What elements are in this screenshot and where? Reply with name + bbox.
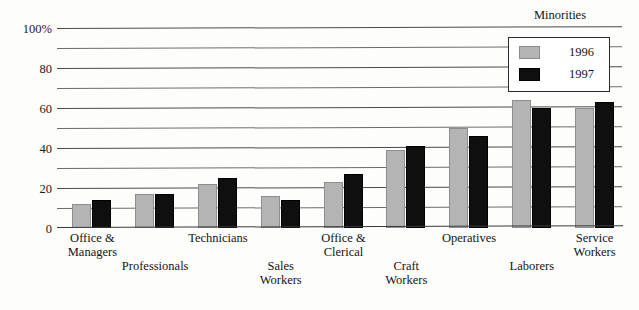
- category-label-line: Workers: [260, 273, 302, 287]
- bar-1996: [135, 194, 154, 228]
- category-label-line: Clerical: [321, 245, 366, 259]
- bar-group: [324, 28, 364, 228]
- y-tick-20: 20: [40, 183, 53, 196]
- category-label: Technicians: [188, 231, 248, 245]
- y-tick-40: 40: [40, 143, 53, 156]
- bar-1996: [198, 184, 217, 228]
- category-label-line: Workers: [574, 245, 616, 259]
- category-label: Office &Clerical: [321, 231, 366, 259]
- black-swatch-icon: [519, 68, 540, 81]
- category-label: Laborers: [510, 259, 554, 273]
- category-label-line: Service: [574, 231, 616, 245]
- category-label: CraftWorkers: [385, 259, 427, 287]
- bar-1996: [512, 100, 531, 228]
- y-tick-60: 60: [40, 103, 53, 116]
- bar-1996: [386, 150, 405, 228]
- bar-group: [386, 28, 426, 228]
- bar-1996: [575, 108, 594, 228]
- category-label-line: Managers: [68, 245, 117, 259]
- legend: 1996 1997: [508, 37, 610, 92]
- bar-1997: [281, 200, 300, 228]
- y-tick-80: 80: [40, 63, 53, 76]
- gray-swatch-icon: [519, 46, 540, 59]
- bar-group: [198, 28, 238, 228]
- category-label: ServiceWorkers: [574, 231, 616, 259]
- bar-group: [72, 28, 112, 228]
- category-label-line: Sales: [260, 259, 302, 273]
- bar-1996: [261, 196, 280, 228]
- bar-1997: [595, 102, 614, 228]
- legend-title: Minorities: [508, 8, 612, 23]
- bar-1997: [406, 146, 425, 228]
- bar-1996: [449, 128, 468, 228]
- x-axis-category-labels: Office &ManagersProfessionalsTechnicians…: [0, 229, 639, 303]
- legend-label-1996: 1996: [569, 45, 594, 60]
- bar-1997: [344, 174, 363, 228]
- bar-1997: [92, 200, 111, 228]
- bar-group: [135, 28, 175, 228]
- category-label-line: Craft: [385, 259, 427, 273]
- category-label-line: Office &: [321, 231, 366, 245]
- category-label: Professionals: [122, 259, 189, 273]
- category-label-line: Operatives: [442, 231, 496, 245]
- bar-1997: [155, 194, 174, 228]
- bar-1997: [218, 178, 237, 228]
- category-label-line: Office &: [68, 231, 117, 245]
- bar-1996: [324, 182, 343, 228]
- minorities-bar-chart: 100% 80 60 40 20 0 Office &ManagersProfe…: [0, 0, 639, 310]
- bar-1997: [532, 108, 551, 228]
- bar-group: [449, 28, 489, 228]
- category-label-line: Technicians: [188, 231, 248, 245]
- category-label-line: Professionals: [122, 259, 189, 273]
- category-label: Office &Managers: [68, 231, 117, 259]
- legend-label-1997: 1997: [569, 67, 594, 82]
- bar-1997: [469, 136, 488, 228]
- bar-1996: [72, 204, 91, 228]
- category-label-line: Workers: [385, 273, 427, 287]
- bar-group: [261, 28, 301, 228]
- y-tick-100: 100%: [23, 23, 52, 36]
- category-label-line: Laborers: [510, 259, 554, 273]
- category-label: SalesWorkers: [260, 259, 302, 287]
- y-axis: 100% 80 60 40 20 0: [0, 28, 52, 228]
- category-label: Operatives: [442, 231, 496, 245]
